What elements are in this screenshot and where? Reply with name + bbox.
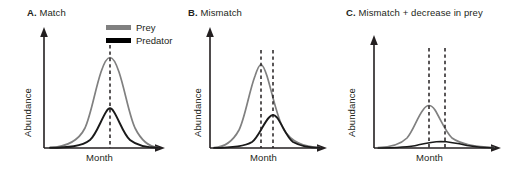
panel-b-mismatch: B. Mismatch Abundance Month [172, 0, 334, 178]
panel-c-y-axis-arrow [370, 35, 378, 45]
panel-c-mismatch-decrease-prey: C. Mismatch + decrease in prey Abundance… [334, 0, 517, 178]
legend-item-predator: Predator [106, 35, 172, 46]
legend-label-prey: Prey [136, 22, 156, 33]
legend-swatch-predator [106, 38, 131, 43]
panel-a-y-axis-arrow [40, 27, 48, 37]
panel-b-predator-curve [214, 115, 320, 148]
panel-a-match: A. Match Abundance Month Prey Pr [0, 0, 172, 178]
legend-label-predator: Predator [136, 35, 172, 46]
legend-swatch-prey [106, 25, 131, 30]
panel-a-predator-curve [50, 108, 158, 148]
legend: Prey Predator [106, 22, 172, 46]
legend-item-prey: Prey [106, 22, 172, 33]
panel-b-prey-curve [214, 65, 320, 148]
panel-b-y-axis-arrow [206, 27, 214, 37]
panel-b-plot [172, 0, 334, 178]
figure-predator-prey-match-mismatch: A. Match Abundance Month Prey Pr [0, 0, 517, 178]
panel-a-prey-curve [50, 58, 158, 148]
panel-c-plot [334, 0, 517, 178]
